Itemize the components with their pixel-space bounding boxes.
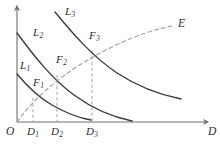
curve-label-l2: L2 (33, 27, 43, 40)
origin-label: O (6, 126, 14, 138)
expansion-path-label-e: E (178, 18, 185, 30)
point-label-f1: F1 (33, 77, 44, 90)
curve-label-l2-sub: 2 (39, 32, 43, 40)
point-label-f3: F3 (89, 30, 100, 43)
point-label-f1-sub: 1 (40, 82, 44, 90)
x-tick-label-d1-base: D (27, 125, 35, 137)
axis-group (17, 10, 204, 122)
point-label-f3-base: F (89, 29, 96, 41)
x-tick-label-d1: D1 (27, 126, 39, 139)
curve-label-l3-sub: 3 (71, 11, 75, 19)
curve-label-l1: L1 (20, 60, 30, 73)
curve-l3 (55, 12, 181, 99)
x-tick-label-d3: D3 (86, 126, 98, 139)
x-tick-label-d2-base: D (51, 125, 59, 137)
point-label-f1-base: F (33, 76, 40, 88)
x-tick-label-d2: D2 (51, 126, 63, 139)
curve-label-l3: L3 (65, 6, 75, 19)
curve-label-l1-sub: 1 (26, 65, 30, 73)
x-axis-label: D (208, 126, 216, 138)
point-label-f2: F2 (56, 54, 67, 67)
x-tick-label-d2-sub: 2 (59, 131, 63, 139)
x-tick-label-d1-sub: 1 (35, 131, 39, 139)
curve-l1 (17, 74, 91, 120)
point-label-f2-base: F (56, 53, 63, 65)
expansion-path-figure: L1 L2 L3 F1 F2 F3 E O D1 D2 D3 D (0, 0, 220, 152)
x-tick-label-d3-sub: 3 (94, 131, 98, 139)
point-label-f3-sub: 3 (96, 35, 100, 43)
point-label-f2-sub: 2 (63, 59, 67, 67)
x-tick-label-d3-base: D (86, 125, 94, 137)
